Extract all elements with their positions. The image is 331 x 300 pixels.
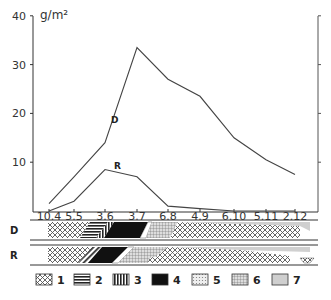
series-lines	[49, 48, 295, 212]
y-tick-label: 40	[12, 10, 26, 23]
band-label-r: R	[10, 250, 18, 261]
legend-label: 1	[57, 274, 65, 287]
legend-label: 5	[213, 274, 221, 287]
band-label-d: D	[10, 225, 18, 236]
series-line-r	[49, 170, 295, 212]
chart: 10203040 g/m² 10.45.53.63.76.84.96.105.1…	[0, 0, 331, 300]
legend-swatch	[74, 274, 90, 285]
band-d: D	[10, 220, 318, 240]
legend-swatch	[36, 274, 52, 285]
series-label-d: D	[111, 115, 118, 125]
x-tick-label: 5.5	[65, 210, 83, 223]
legend-label: 3	[134, 274, 142, 287]
y-tick-label: 20	[12, 107, 26, 120]
legend-label: 4	[173, 274, 181, 287]
series-line-d	[49, 48, 295, 204]
y-tick-label: 30	[12, 59, 26, 72]
x-tick-label: 2.12	[283, 210, 308, 223]
legend-label: 2	[95, 274, 103, 287]
legend-item-4: 4	[152, 274, 181, 287]
legend-item-3: 3	[113, 274, 142, 287]
legend-item-6: 6	[232, 274, 261, 287]
right-axis	[318, 16, 321, 212]
y-tick-label: 10	[12, 156, 26, 169]
legend-swatch	[272, 274, 288, 285]
legend-label: 7	[293, 274, 301, 287]
series-label-r: R	[114, 161, 121, 171]
band-r: R	[10, 245, 318, 265]
legend-item-2: 2	[74, 274, 103, 287]
legend-item-7: 7	[272, 274, 301, 287]
x-tick-label: 5.11	[254, 210, 279, 223]
y-axis-unit-label: g/m²	[40, 8, 68, 22]
x-tick-label: 6.10	[222, 210, 247, 223]
x-tick-label: 10.4	[37, 210, 62, 223]
legend-swatch	[232, 274, 248, 285]
legend-item-5: 5	[192, 274, 221, 287]
legend-swatch	[192, 274, 208, 285]
legend-swatch	[113, 274, 129, 285]
x-tick-label: 3.7	[128, 210, 146, 223]
legend-item-1: 1	[36, 274, 65, 287]
y-axis: 10203040 g/m²	[12, 8, 68, 212]
x-tick-label: 4.9	[191, 210, 209, 223]
x-tick-label: 3.6	[96, 210, 114, 223]
legend-label: 6	[253, 274, 261, 287]
x-tick-label: 6.8	[159, 210, 177, 223]
legend: 1234567	[36, 274, 301, 287]
legend-swatch	[152, 274, 168, 285]
